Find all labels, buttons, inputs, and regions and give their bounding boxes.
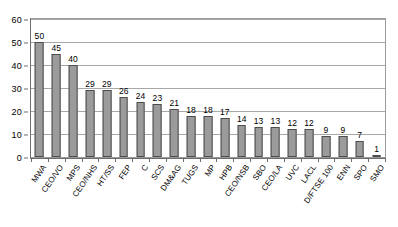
bar-slot: 29 — [82, 19, 99, 157]
x-axis-tickmark — [385, 158, 386, 162]
bar[interactable] — [237, 125, 246, 157]
bar[interactable] — [102, 90, 111, 157]
bar[interactable] — [86, 90, 95, 157]
bar-value-label: 13 — [271, 116, 281, 126]
bar-slot: 9 — [334, 19, 351, 157]
bars-layer: 50454029292624232118181714131312129971 — [31, 19, 385, 157]
x-axis-tickmark — [65, 158, 66, 162]
y-axis-tick-label: 40 — [12, 61, 22, 71]
bar-slot: 1 — [368, 19, 385, 157]
bar-slot: 13 — [267, 19, 284, 157]
bar-value-label: 26 — [119, 86, 129, 96]
x-axis-tickmark — [48, 158, 49, 162]
y-axis-tick-label: 20 — [12, 107, 22, 117]
x-axis-tickmark — [166, 158, 167, 162]
bar-value-label: 29 — [85, 79, 95, 89]
y-axis-tick-label: 0 — [17, 153, 22, 163]
x-axis-tickmark — [334, 158, 335, 162]
bar-slot: 29 — [98, 19, 115, 157]
bar-slot: 7 — [351, 19, 368, 157]
bar-slot: 17 — [216, 19, 233, 157]
bar[interactable] — [254, 127, 263, 157]
x-axis-tickmark — [98, 158, 99, 162]
bar-slot: 21 — [166, 19, 183, 157]
bar-slot: 50 — [31, 19, 48, 157]
x-axis-tickmark — [284, 158, 285, 162]
bar-slot: 12 — [301, 19, 318, 157]
bar-slot: 26 — [115, 19, 132, 157]
bar[interactable] — [69, 65, 78, 157]
bar-slot: 45 — [48, 19, 65, 157]
x-axis-tickmark — [250, 158, 251, 162]
bar-value-label: 12 — [304, 118, 314, 128]
y-axis-tickmark — [24, 89, 28, 90]
bar[interactable] — [153, 104, 162, 157]
bar[interactable] — [119, 97, 128, 157]
bar[interactable] — [220, 118, 229, 157]
x-axis-category-label: SMO — [368, 163, 386, 183]
bar-value-label: 45 — [51, 43, 61, 53]
bar[interactable] — [322, 136, 331, 157]
bar-slot: 12 — [284, 19, 301, 157]
bar[interactable] — [338, 136, 347, 157]
x-axis-tickmark — [301, 158, 302, 162]
bar-value-label: 18 — [203, 105, 213, 115]
bar-value-label: 13 — [254, 116, 264, 126]
bar-value-label: 23 — [153, 93, 163, 103]
bar[interactable] — [271, 127, 280, 157]
y-axis-tickmark — [24, 66, 28, 67]
bar[interactable] — [288, 129, 297, 157]
y-axis-tickmark — [24, 20, 28, 21]
y-axis-tickmark — [24, 158, 28, 159]
x-axis-category-label: SPO — [352, 163, 369, 182]
bar[interactable] — [52, 54, 61, 158]
bar-slot: 18 — [183, 19, 200, 157]
bar-value-label: 14 — [237, 114, 247, 124]
bar-slot: 23 — [149, 19, 166, 157]
y-axis-tick-label: 10 — [12, 130, 22, 140]
bar-value-label: 9 — [324, 125, 329, 135]
bar[interactable] — [35, 42, 44, 157]
bar-slot: 13 — [250, 19, 267, 157]
bar-value-label: 18 — [186, 105, 196, 115]
bar[interactable] — [305, 129, 314, 157]
bar-value-label: 17 — [220, 107, 230, 117]
bar-value-label: 24 — [136, 91, 146, 101]
bar-slot: 9 — [318, 19, 335, 157]
x-axis-tickmark — [82, 158, 83, 162]
bar[interactable] — [204, 116, 213, 157]
bar-value-label: 1 — [374, 144, 379, 154]
bar-value-label: 50 — [35, 31, 45, 41]
x-axis-category-label: MP — [203, 163, 217, 178]
x-axis-tickmark — [233, 158, 234, 162]
x-axis-tickmark — [132, 158, 133, 162]
y-axis-tick-label: 30 — [12, 84, 22, 94]
bar-slot: 40 — [65, 19, 82, 157]
bar-value-label: 12 — [287, 118, 297, 128]
x-axis-labels: MWACEO/VOMPSCEO/NHSHT/SSFEPCSCSDM&AGTUGS… — [31, 163, 385, 225]
bar[interactable] — [372, 155, 381, 157]
x-axis-tickmark — [183, 158, 184, 162]
x-axis-tickmark — [368, 158, 369, 162]
bar[interactable] — [187, 116, 196, 157]
bar[interactable] — [136, 102, 145, 157]
x-axis-tickmark — [318, 158, 319, 162]
x-axis-tickmark — [115, 158, 116, 162]
bar-slot: 18 — [200, 19, 217, 157]
bar[interactable] — [170, 109, 179, 157]
y-axis-tickmark — [24, 135, 28, 136]
bar-value-label: 21 — [169, 98, 179, 108]
y-axis-tickmark — [24, 112, 28, 113]
bar-value-label: 7 — [357, 130, 362, 140]
x-axis-tickmark — [216, 158, 217, 162]
y-axis-tickmark — [24, 43, 28, 44]
x-axis-tickmark — [200, 158, 201, 162]
bar[interactable] — [355, 141, 364, 157]
x-axis-tickmark — [31, 158, 32, 162]
bar-slot: 24 — [132, 19, 149, 157]
x-axis-category-label: TUGS — [180, 163, 200, 187]
bar-value-label: 40 — [68, 54, 78, 64]
x-axis-category-label: ENN — [335, 163, 352, 182]
x-axis-category-label: C — [139, 163, 150, 173]
x-axis-category-label: FEP — [117, 163, 133, 181]
